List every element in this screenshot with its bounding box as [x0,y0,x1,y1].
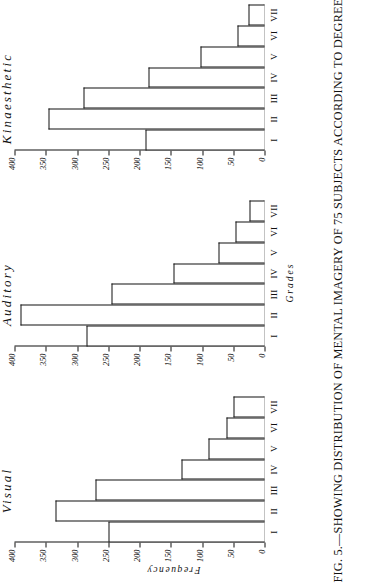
bar-series [14,4,264,150]
y-tick-mark [77,150,78,155]
bar [95,479,264,500]
x-tick-label: VI [268,221,284,242]
bar [237,25,265,46]
bar-slot [14,304,264,325]
bar-slot [14,459,264,480]
y-tick: 400 [14,346,15,392]
y-tick-mark [108,150,109,155]
y-tick-mark [108,542,109,547]
bar [48,108,264,129]
y-tick: 400 [14,542,15,588]
x-tick-label: II [268,108,284,129]
plot-area [14,200,264,346]
y-tick-label: 0 [257,549,266,553]
bar-slot [14,263,264,284]
x-tick-label: V [268,46,284,67]
bar-series [14,200,264,346]
bar [111,283,264,304]
bar [108,521,264,542]
x-axis-ticks: IIIIIIIVVVIVII [268,200,284,346]
bar [249,200,264,221]
y-tick-label: 400 [7,157,16,169]
y-tick-label: 200 [132,549,141,561]
y-tick-mark [14,150,15,155]
x-tick-label: II [268,500,284,521]
y-tick-mark [170,346,171,351]
bar-slot [14,283,264,304]
y-tick-mark [264,542,265,547]
bar-slot [14,4,264,25]
y-tick-mark [14,542,15,547]
y-tick-label: 100 [195,353,204,365]
bar-slot [14,25,264,46]
y-tick-mark [139,150,140,155]
x-tick-label: IV [268,459,284,480]
y-tick-mark [264,150,265,155]
bar-slot [14,200,264,221]
bar [86,325,264,346]
y-tick-label: 250 [101,157,110,169]
plot-area [14,396,264,542]
bar [145,129,264,150]
y-tick: 100 [202,346,203,392]
y-tick: 300 [77,542,78,588]
y-tick-mark [77,346,78,351]
bar-slot [14,325,264,346]
bar [55,500,264,521]
bar [235,221,264,242]
bar-slot [14,396,264,417]
x-tick-label: III [268,283,284,304]
y-tick: 300 [77,150,78,196]
y-tick-mark [139,542,140,547]
y-axis-ticks: 050100150200250300350400 [14,542,264,588]
y-tick-label: 50 [226,157,235,165]
y-tick: 350 [45,542,46,588]
y-tick-label: 300 [70,157,79,169]
y-tick-label: 400 [7,549,16,561]
y-tick: 0 [264,346,265,392]
x-tick-label: VII [268,396,284,417]
y-tick: 200 [139,346,140,392]
rotated-figure-canvas: Visual050100150200250300350400IIIIIIIVVV… [0,0,373,588]
chart-panel: Visual050100150200250300350400IIIIIIIVVV… [0,392,325,588]
x-tick-label: I [268,521,284,542]
plot-area [14,4,264,150]
x-tick-label: VII [268,200,284,221]
x-tick-label: II [268,304,284,325]
y-tick-label: 150 [163,353,172,365]
y-tick-label: 350 [38,353,47,365]
caption-body: SHOWING DISTRIBUTION OF MENTAL IMAGERY O… [330,0,344,533]
y-tick-mark [108,346,109,351]
bar [218,242,264,263]
y-tick-label: 250 [101,353,110,365]
y-tick: 300 [77,346,78,392]
y-tick-mark [233,346,234,351]
y-axis-title: Frequency [145,564,200,574]
x-axis-ticks: IIIIIIIVVVIVII [268,396,284,542]
y-axis-ticks: 050100150200250300350400 [14,150,264,196]
bar-slot [14,67,264,88]
y-tick: 50 [233,542,234,588]
bar [181,459,264,480]
bar-slot [14,521,264,542]
bar-series [14,396,264,542]
bar-slot [14,221,264,242]
y-tick: 0 [264,542,265,588]
y-tick-label: 250 [101,549,110,561]
bar [173,263,264,284]
figure-caption: FIG. 5.—SHOWING DISTRIBUTION OF MENTAL I… [330,4,345,582]
bar-slot [14,242,264,263]
bar [248,4,264,25]
y-tick-mark [202,542,203,547]
y-tick-label: 350 [38,549,47,561]
bar [83,87,264,108]
x-tick-label: I [268,129,284,150]
y-tick-mark [45,346,46,351]
y-tick-label: 200 [132,353,141,365]
y-tick-label: 0 [257,157,266,161]
bar-slot [14,438,264,459]
y-tick-mark [170,150,171,155]
bar [226,417,264,438]
x-tick-label: I [268,325,284,346]
y-tick: 0 [264,150,265,196]
